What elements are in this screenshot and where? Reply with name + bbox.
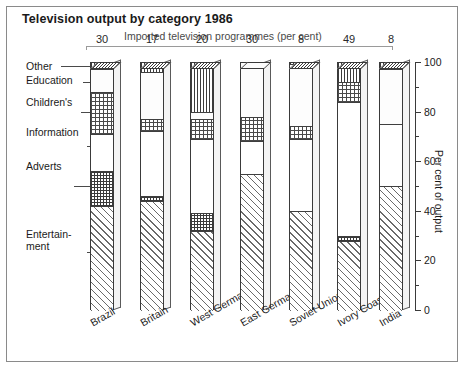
segment-information-britain[interactable] (141, 132, 163, 196)
y-tick-label-20: 20 (424, 254, 436, 266)
bar-front-face (337, 62, 361, 310)
imported-value-ivory-coast: 49 (329, 33, 369, 45)
y-tick-100 (415, 62, 421, 63)
segment-education-india[interactable] (380, 70, 402, 125)
y-axis-title: Per cent of output (433, 150, 445, 233)
bar-front-face (240, 62, 264, 310)
y-tick-0 (415, 310, 421, 311)
category-label-other: Other (26, 60, 52, 72)
category-label-information: Information (26, 126, 79, 138)
y-tick-70 (415, 136, 419, 137)
segment-education-britain[interactable] (141, 73, 163, 120)
bar-brazil[interactable] (90, 62, 114, 310)
bar-side-face (403, 60, 410, 310)
y-tick-80 (415, 112, 421, 113)
segment-entertainment-ivory-coast[interactable] (338, 242, 360, 311)
bar-ivory-coast[interactable] (337, 62, 361, 310)
y-tick-label-0: 0 (424, 304, 430, 316)
segment-education-soviet-union[interactable] (290, 65, 312, 127)
y-tick-label-80: 80 (424, 106, 436, 118)
imported-value-brazil: 30 (82, 33, 122, 45)
segment-education-east-germany[interactable] (241, 63, 263, 118)
segment-entertainment-soviet-union[interactable] (290, 212, 312, 311)
imported-value-east-germany: 30 (232, 33, 272, 45)
imported-value-soviet-union: 8 (281, 33, 321, 45)
segment-children-s-britain[interactable] (141, 120, 163, 132)
bar-side-face (114, 60, 121, 310)
bar-front-face (289, 62, 313, 310)
imported-value-india: 8 (371, 33, 411, 45)
leader-line-adverts (74, 186, 90, 187)
bar-side-face (264, 60, 271, 310)
segment-adverts-brazil[interactable] (91, 172, 113, 207)
category-label-adverts: Adverts (26, 160, 62, 172)
segment-entertainment-britain[interactable] (141, 202, 163, 311)
bar-side-face (361, 60, 368, 310)
bar-side-face (214, 60, 221, 310)
category-label-children-s: Children's (26, 96, 72, 108)
y-tick-30 (415, 236, 419, 237)
bar-india[interactable] (379, 62, 403, 310)
y-tick-90 (415, 87, 419, 88)
bar-side-face (313, 60, 320, 310)
y-tick-10 (415, 285, 419, 286)
segment-entertainment-west-germany[interactable] (191, 232, 213, 311)
segment-adverts-west-germany[interactable] (191, 214, 213, 231)
bar-front-face (379, 62, 403, 310)
bar-front-face (90, 62, 114, 310)
y-tick-20 (415, 260, 421, 261)
segment-entertainment-india[interactable] (380, 187, 402, 311)
bar-east-germany[interactable] (240, 62, 264, 310)
leader-line-information (87, 146, 90, 147)
plot-area: 301720308498BrazilBritainWest GermanyEas… (0, 0, 452, 356)
segment-entertainment-brazil[interactable] (91, 207, 113, 311)
leader-line-education (83, 82, 90, 83)
segment-children-s-ivory-coast[interactable] (338, 83, 360, 103)
segment-information-ivory-coast[interactable] (338, 103, 360, 237)
y-tick-label-100: 100 (424, 56, 442, 68)
segment-information-soviet-union[interactable] (290, 140, 312, 212)
segment-information-india[interactable] (380, 125, 402, 187)
y-tick-50 (415, 186, 419, 187)
segment-children-s-west-germany[interactable] (191, 120, 213, 140)
bar-soviet-union[interactable] (289, 62, 313, 310)
bar-front-face (190, 62, 214, 310)
y-tick-40 (415, 211, 421, 212)
segment-information-west-germany[interactable] (191, 140, 213, 214)
bar-west-germany[interactable] (190, 62, 214, 310)
category-label-entertain: Entertain- (26, 228, 72, 240)
category-label-education: Education (26, 74, 73, 86)
segment-children-s-soviet-union[interactable] (290, 127, 312, 139)
segment-children-s-east-germany[interactable] (241, 118, 263, 143)
segment-education-brazil[interactable] (91, 70, 113, 92)
bar-side-face (164, 60, 171, 310)
imported-value-britain: 17 (132, 33, 172, 45)
y-tick-60 (415, 161, 421, 162)
bar-front-face (140, 62, 164, 310)
segment-children-s-brazil[interactable] (91, 93, 113, 135)
leader-line-entertain (87, 252, 90, 253)
segment-information-east-germany[interactable] (241, 142, 263, 174)
segment-other-west-germany[interactable] (191, 63, 213, 113)
bar-britain[interactable] (140, 62, 164, 310)
category-label-ment: ment (26, 240, 49, 252)
segment-education-west-germany[interactable] (191, 113, 213, 120)
segment-entertainment-east-germany[interactable] (241, 175, 263, 311)
segment-information-brazil[interactable] (91, 135, 113, 172)
leader-line-children-s (81, 112, 90, 113)
leader-line-other (61, 66, 90, 67)
imported-value-west-germany: 20 (182, 33, 222, 45)
